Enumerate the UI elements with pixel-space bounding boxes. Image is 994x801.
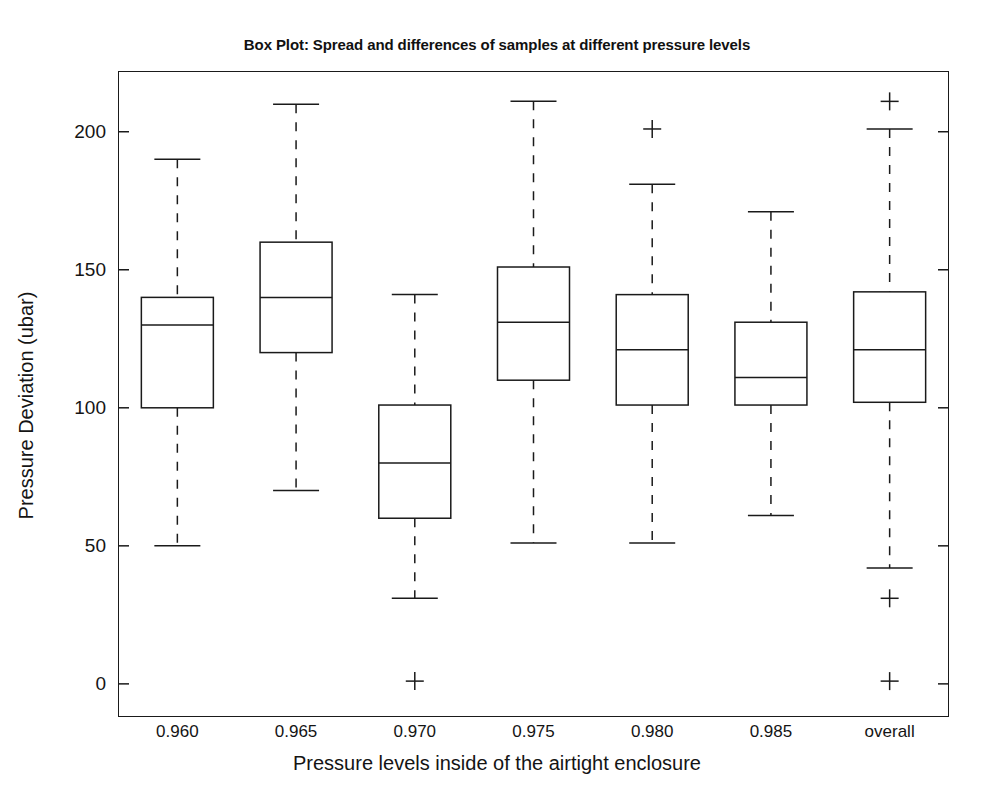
y-tick-label: 50 — [36, 535, 106, 557]
chart-title: Box Plot: Spread and differences of samp… — [0, 36, 994, 53]
x-tick-label-overall: overall — [830, 722, 950, 742]
y-axis-label: Pressure Deviation (ubar) — [15, 241, 38, 571]
plot-area — [118, 71, 949, 717]
x-tick-label-0-980: 0.980 — [592, 722, 712, 742]
y-tick-label: 0 — [36, 673, 106, 695]
y-tick-label: 200 — [36, 121, 106, 143]
x-tick-label-0-970: 0.970 — [355, 722, 475, 742]
y-tick-label: 150 — [36, 259, 106, 281]
x-tick-label-0-975: 0.975 — [474, 722, 594, 742]
x-tick-label-0-985: 0.985 — [711, 722, 831, 742]
x-axis-label: Pressure levels inside of the airtight e… — [0, 752, 994, 775]
y-tick-label: 100 — [36, 397, 106, 419]
box-plot-figure: Box Plot: Spread and differences of samp… — [0, 0, 994, 801]
x-tick-label-0-965: 0.965 — [236, 722, 356, 742]
x-tick-label-0-960: 0.960 — [117, 722, 237, 742]
